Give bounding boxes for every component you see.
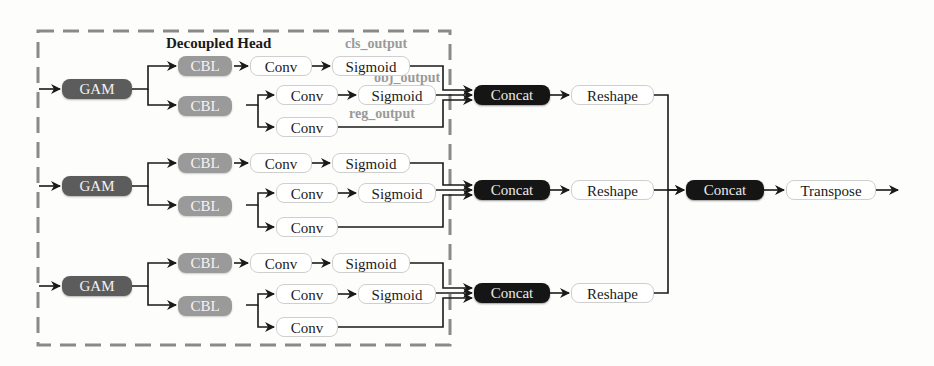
cbl-node: CBL [178,196,232,216]
conv-node: Conv [276,317,338,337]
reshape-node: Reshape [571,85,654,105]
sigmoid-node: Sigmoid [358,284,436,304]
conv-node: Conv [276,284,338,304]
sigmoid-node: Sigmoid [332,253,410,273]
gam-node: GAM [62,176,132,196]
conv-node: Conv [276,85,338,105]
sigmoid-node: Sigmoid [332,153,410,173]
transpose-node: Transpose [786,180,876,200]
conv-node: Conv [250,56,312,76]
gam-node: GAM [62,276,132,296]
cls-output-label: cls_output [345,36,407,52]
concat-node: Concat [474,180,550,200]
cbl-node: CBL [178,253,232,273]
decoupled-head-title: Decoupled Head [166,35,271,52]
cbl-node: CBL [178,96,232,116]
concat-node: Concat [474,283,550,303]
gam-node: GAM [62,79,132,99]
reshape-node: Reshape [571,180,654,200]
conv-node: Conv [276,217,338,237]
cbl-node: CBL [178,296,232,316]
final-concat-node: Concat [686,180,764,200]
conv-node: Conv [250,153,312,173]
sigmoid-node: Sigmoid [358,183,436,203]
concat-node: Concat [474,85,550,105]
sigmoid-node: Sigmoid [332,56,410,76]
cbl-node: CBL [178,153,232,173]
sigmoid-node: Sigmoid [358,85,436,105]
conv-node: Conv [276,183,338,203]
conv-node: Conv [276,117,338,137]
conv-node: Conv [250,253,312,273]
reshape-node: Reshape [571,283,654,303]
cbl-node: CBL [178,56,232,76]
reg-output-label: reg_output [349,106,415,122]
